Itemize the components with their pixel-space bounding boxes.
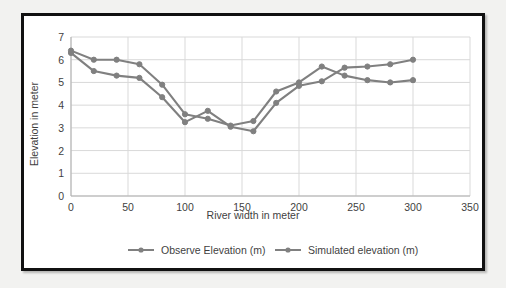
legend-item-label: Simulated elevation (m) — [308, 244, 418, 256]
x-tick-label: 300 — [404, 201, 422, 213]
data-point — [251, 129, 256, 134]
data-point — [319, 79, 324, 84]
x-tick-label: 350 — [461, 201, 479, 213]
data-point — [114, 73, 119, 78]
y-tick-label: 3 — [58, 122, 64, 134]
figure-frame: 01234567 050100150200250300350 River wid… — [21, 13, 485, 271]
y-tick-label: 1 — [58, 167, 64, 179]
data-point — [228, 124, 233, 129]
y-tick-label: 6 — [58, 54, 64, 66]
data-point — [137, 62, 142, 67]
data-point — [296, 83, 301, 88]
legend-item-label: Observe Elevation (m) — [161, 244, 265, 256]
data-point — [182, 120, 187, 125]
data-point — [251, 118, 256, 123]
y-tick-label: 5 — [58, 76, 64, 88]
y-tick-label: 7 — [58, 31, 64, 43]
data-point — [365, 64, 370, 69]
data-point — [274, 100, 279, 105]
data-point — [68, 50, 73, 55]
line-chart: 01234567 050100150200250300350 River wid… — [24, 16, 482, 268]
data-point — [205, 108, 210, 113]
x-tick-label: 0 — [68, 201, 74, 213]
data-point — [137, 75, 142, 80]
legend-marker-icon — [138, 247, 143, 252]
data-point — [319, 64, 324, 69]
data-point — [410, 78, 415, 83]
legend-marker-icon — [285, 247, 290, 252]
y-tick-label: 4 — [58, 99, 64, 111]
y-tick-label: 0 — [58, 190, 64, 202]
data-point — [388, 80, 393, 85]
data-point — [342, 73, 347, 78]
x-tick-label: 250 — [347, 201, 365, 213]
screenshot-page: 01234567 050100150200250300350 River wid… — [0, 0, 506, 288]
y-axis-title: Elevation in meter — [28, 81, 40, 166]
data-point — [342, 65, 347, 70]
data-point — [114, 57, 119, 62]
data-point — [274, 89, 279, 94]
y-tick-label: 2 — [58, 145, 64, 157]
x-tick-label: 100 — [176, 201, 194, 213]
data-point — [160, 82, 165, 87]
data-point — [410, 57, 415, 62]
data-point — [365, 78, 370, 83]
data-point — [182, 112, 187, 117]
x-tick-label: 50 — [122, 201, 134, 213]
data-point — [205, 116, 210, 121]
data-point — [91, 57, 96, 62]
data-point — [388, 62, 393, 67]
data-point — [160, 95, 165, 100]
x-axis-title: River width in meter — [207, 209, 300, 221]
data-point — [91, 68, 96, 73]
chart-area: 01234567 050100150200250300350 River wid… — [24, 16, 482, 268]
